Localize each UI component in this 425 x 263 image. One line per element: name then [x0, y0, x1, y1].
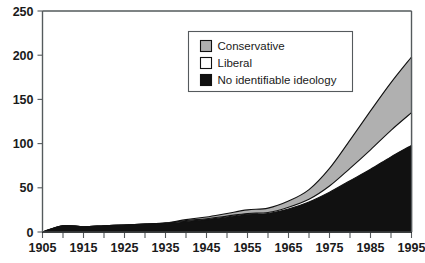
x-tick-label: 1935 — [152, 241, 180, 255]
x-tick-label: 1995 — [398, 241, 425, 255]
x-tick-label: 1905 — [29, 241, 57, 255]
chart-legend: ConservativeLiberalNo identifiable ideol… — [189, 32, 353, 92]
legend-label: Liberal — [218, 57, 253, 69]
legend-swatch — [201, 75, 212, 86]
y-tick-label: 50 — [20, 181, 34, 195]
y-tick-label: 100 — [13, 137, 34, 151]
x-tick-label: 1955 — [234, 241, 262, 255]
legend-label: Conservative — [218, 40, 285, 52]
x-tick-label: 1925 — [111, 241, 139, 255]
x-tick-label: 1985 — [357, 241, 385, 255]
x-tick-label: 1915 — [70, 241, 98, 255]
legend-label: No identifiable ideology — [218, 74, 337, 86]
legend-swatch — [201, 41, 212, 52]
chart-svg: 050100150200250 190519151925193519451955… — [0, 0, 425, 263]
x-tick-label: 1965 — [275, 241, 303, 255]
y-tick-label: 150 — [13, 93, 34, 107]
y-tick-label: 250 — [13, 5, 34, 19]
legend-swatch — [201, 58, 212, 69]
x-tick-label: 1945 — [193, 241, 221, 255]
stacked-area-chart: 050100150200250 190519151925193519451955… — [0, 0, 425, 263]
y-tick-label: 200 — [13, 49, 34, 63]
y-tick-label: 0 — [27, 226, 34, 240]
x-tick-label: 1975 — [316, 241, 344, 255]
